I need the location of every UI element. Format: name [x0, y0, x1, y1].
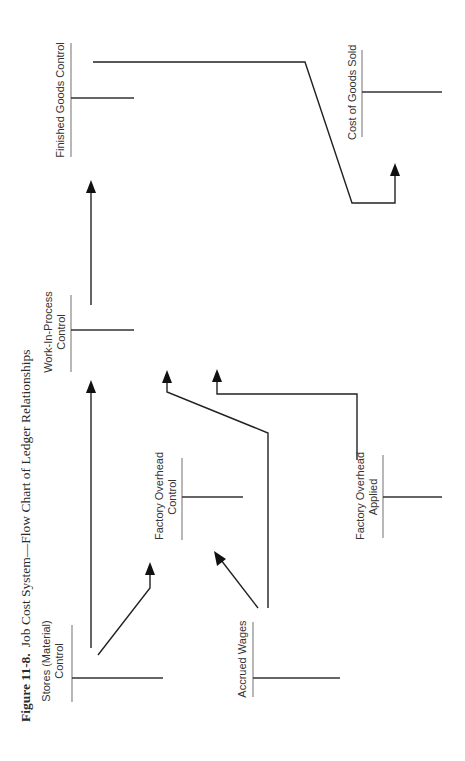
- t-account-finished-goods: [71, 43, 134, 157]
- t-account-accrued-wages: [253, 622, 340, 697]
- arrow-wip-to-fg: [86, 180, 96, 305]
- flow-chart: Figure 11-8.Job Cost System—Flow Chart o…: [0, 0, 465, 761]
- arrow-stores-to-foc: [98, 562, 155, 655]
- t-account-cost-of-goods-sold: [362, 50, 442, 137]
- arrowhead-icon: [162, 370, 172, 383]
- t-account-factory-overhead-applied: [383, 455, 442, 538]
- arrowhead-icon: [86, 380, 96, 393]
- t-account-factory-overhead-control: [182, 458, 243, 540]
- arrow-foa-to-wip: [212, 369, 357, 460]
- arrowhead-icon: [145, 562, 155, 575]
- arrowhead-icon: [390, 163, 400, 176]
- arrowhead-icon: [86, 180, 96, 193]
- arrow-wages-to-wip: [162, 370, 268, 608]
- t-account-work-in-process: [71, 295, 134, 372]
- t-account-stores: [72, 625, 163, 702]
- arrow-wages-to-foc: [214, 551, 258, 608]
- diagram-lines: [0, 0, 465, 761]
- arrow-fg-to-cogs: [93, 62, 400, 203]
- arrowhead-icon: [212, 369, 222, 382]
- arrow-stores-to-wip: [86, 380, 96, 648]
